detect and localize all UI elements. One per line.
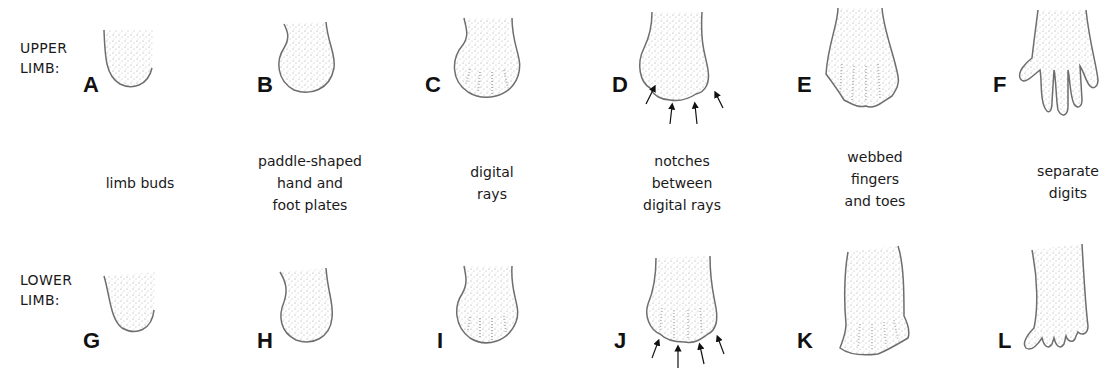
stage-letter-c: C: [425, 72, 441, 98]
stage-letter-e: E: [797, 72, 812, 98]
caption-webbed: webbed fingers and toes: [805, 146, 945, 212]
limb-bud-upper-figure: [100, 28, 160, 93]
caption-digital-rays: digital rays: [422, 161, 562, 205]
caption-paddle-plates: paddle-shaped hand and foot plates: [240, 150, 380, 216]
notched-rays-lower-figure: [640, 254, 730, 374]
webbed-toes-lower-figure: [838, 244, 918, 364]
caption-notches: notches between digital rays: [612, 150, 752, 216]
digital-rays-upper-figure: [450, 14, 530, 104]
limb-bud-lower-figure: [102, 270, 162, 335]
caption-separate-digits: separate digits: [998, 160, 1113, 204]
notched-rays-upper-figure: [630, 8, 730, 128]
webbed-fingers-upper-figure: [822, 4, 912, 114]
stage-letter-d: D: [612, 72, 628, 98]
paddle-plate-upper-figure: [274, 18, 344, 98]
digital-rays-lower-figure: [452, 262, 527, 352]
separate-digits-upper-figure: [1018, 6, 1108, 121]
caption-limb-buds: limb buds: [70, 172, 210, 194]
stage-letter-f: F: [993, 72, 1006, 98]
stage-letter-a: A: [83, 72, 99, 98]
stage-letter-h: H: [257, 328, 273, 354]
upper-limb-label: UPPER LIMB:: [20, 38, 67, 78]
lower-limb-label: LOWER LIMB:: [20, 270, 72, 310]
stage-letter-j: J: [614, 328, 626, 354]
stage-letter-i: I: [437, 328, 443, 354]
stage-letter-b: B: [257, 72, 273, 98]
stage-letter-g: G: [83, 328, 100, 354]
stage-letter-l: L: [998, 328, 1011, 354]
separate-toes-lower-figure: [1016, 240, 1106, 360]
paddle-plate-lower-figure: [276, 266, 346, 348]
stage-letter-k: K: [797, 328, 813, 354]
